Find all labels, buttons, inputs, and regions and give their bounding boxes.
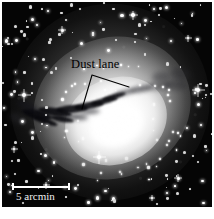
dust-lane-leader-lines	[2, 2, 212, 207]
scale-bar-tick-right	[68, 183, 70, 190]
astronomical-image-plate: Dust lane 5 arcmin	[2, 2, 212, 207]
figure-container: Dust lane 5 arcmin	[0, 0, 214, 219]
scale-bar-label: 5 arcmin	[16, 190, 70, 202]
scale-bar-tick-left	[12, 183, 14, 190]
scale-bar: 5 arcmin	[12, 183, 70, 202]
scale-bar-line	[12, 186, 70, 188]
dust-lane-label: Dust lane	[71, 57, 119, 71]
scale-bar-rule	[12, 183, 70, 190]
